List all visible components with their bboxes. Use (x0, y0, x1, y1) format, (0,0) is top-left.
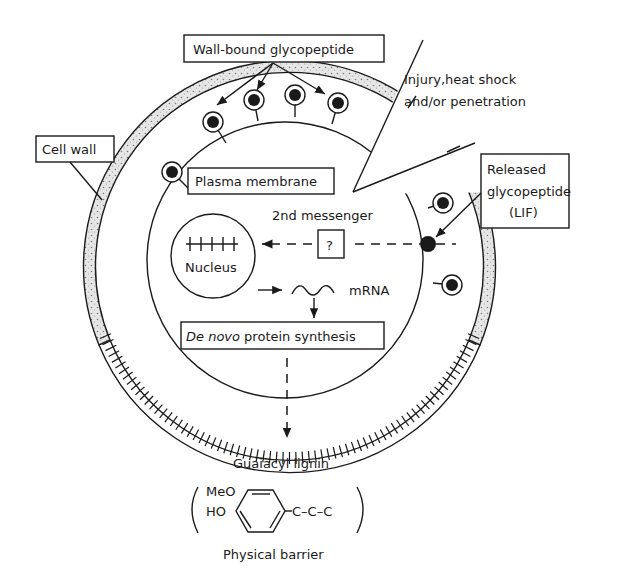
mrna-label: mRNA (349, 283, 389, 298)
cell-diagram: Wall-bound glycopeptide Injury,heat shoc… (0, 0, 622, 582)
released-label-line1: Released (487, 162, 546, 177)
left-paren (192, 487, 198, 533)
wall-hatch-tick (363, 437, 368, 448)
wall-hatch-tick (211, 437, 216, 448)
right-paren (357, 487, 363, 533)
injury-wedge-edge (353, 40, 423, 192)
wall-hatch-tick (199, 432, 204, 443)
plasma-membrane-label: Plasma membrane (195, 174, 317, 189)
injury-wedge-edge (353, 143, 475, 192)
glycopeptide-icon (244, 90, 264, 121)
wall-hatch-tick (339, 445, 342, 457)
released-glycopeptide-dot (420, 236, 436, 252)
released-label-line3: (LIF) (509, 205, 538, 220)
glycopeptide-icon (428, 193, 453, 213)
wall-bound-label: Wall-bound glycopeptide (193, 42, 354, 57)
wall-hatch-tick (345, 444, 348, 455)
wall-hatch-tick (230, 444, 233, 455)
released-label-line2: glycopeptide (487, 184, 571, 199)
glycopeptide-icon (203, 112, 226, 143)
second-messenger-label: 2nd messenger (272, 208, 374, 223)
wall-hatch-tick (351, 442, 355, 453)
wall-hatch-tick (217, 440, 221, 451)
ho-label: HO (206, 504, 226, 519)
unknown-messenger-label: ? (326, 238, 333, 253)
guaiacyl-lignin-label: Guaiacyl lignin (233, 456, 329, 471)
wall-hatch-tick (224, 442, 228, 453)
injury-label-line2: and/or penetration (404, 94, 526, 109)
cell-wall-hatched (99, 334, 480, 473)
injury-label-line1: Injury,heat shock (404, 72, 517, 87)
physical-barrier-label: Physical barrier (223, 547, 324, 562)
side-chain-label: C–C–C (292, 504, 332, 519)
wall-hatch-tick (369, 435, 374, 446)
de-novo-text: De novo (186, 329, 240, 344)
glycopeptide-icon (433, 275, 462, 295)
lignin-structure: MeO HO C–C–C (192, 484, 363, 533)
mrna-wave-icon (292, 286, 334, 295)
wall-hatch-tick (357, 440, 361, 451)
meo-label: MeO (206, 484, 235, 499)
benzene-ring-icon (236, 490, 285, 532)
nucleus-circle (171, 214, 255, 298)
wall-hatch-tick (333, 447, 336, 459)
protein-synthesis-text: protein synthesis (240, 329, 356, 344)
nucleus-label: Nucleus (185, 260, 237, 275)
cell-wall-label: Cell wall (42, 142, 96, 157)
wall-hatch-tick (205, 435, 210, 446)
cell-wall-pointer (70, 162, 102, 200)
protein-synthesis-label: De novo protein synthesis (186, 329, 356, 344)
chromosome-icon (186, 237, 238, 251)
wall-hatch-tick (375, 432, 380, 443)
glycopeptide-icon (328, 93, 348, 124)
glycopeptide-icon (285, 85, 305, 117)
glycopeptide-icon (162, 162, 190, 190)
